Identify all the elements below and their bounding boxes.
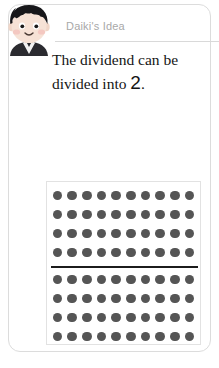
dot [141,248,151,258]
dot [141,191,151,201]
dot [126,191,136,201]
dot [155,248,165,258]
dot [67,332,77,342]
dot [82,275,92,285]
dot [126,229,136,239]
dot [53,332,63,342]
dot [170,191,180,201]
dot [67,210,77,220]
dot [97,210,107,220]
dot [170,332,180,342]
dot [82,191,92,201]
dot [67,313,77,323]
dot [170,248,180,258]
dot [126,210,136,220]
dot [82,229,92,239]
dot-group-top [47,186,200,262]
dot [53,191,63,201]
dot [170,275,180,285]
dot [82,332,92,342]
dot [97,191,107,201]
dot [141,313,151,323]
dot [155,294,165,304]
dot [67,294,77,304]
dot [170,294,180,304]
boy-avatar-icon [4,2,54,56]
dot [53,294,63,304]
dot [185,332,195,342]
dot [141,210,151,220]
dot [67,275,77,285]
dot [141,294,151,304]
dot [97,332,107,342]
dot [185,248,195,258]
dot-array-split-line [51,266,198,268]
dot [111,313,121,323]
dot [185,191,195,201]
dot [185,275,195,285]
sentence-text-after: . [141,75,145,92]
dot [111,210,121,220]
dot-group-bottom [47,270,200,346]
dot [67,191,77,201]
sentence-text: The dividend can be divided into 2. [52,48,212,95]
dot [67,248,77,258]
dot-row [47,243,200,262]
dot-array-box [46,181,201,345]
dot [97,229,107,239]
dot [82,294,92,304]
dot-row [47,205,200,224]
dot [82,313,92,323]
dot [53,248,63,258]
dot [185,210,195,220]
dot-row [47,289,200,308]
dot [82,210,92,220]
dot [185,294,195,304]
dot [97,294,107,304]
dot [111,332,121,342]
dot [126,275,136,285]
dot [67,229,77,239]
dot [53,210,63,220]
dot [185,313,195,323]
dot [82,248,92,258]
dot-row [47,308,200,327]
sentence-text-before: The dividend can be divided into [52,51,178,92]
dot [111,248,121,258]
dot-row [47,186,200,205]
header-divider [55,41,219,42]
sentence-number: 2 [130,72,141,93]
dot [170,210,180,220]
dot-row [47,224,200,243]
dot [155,332,165,342]
dot [155,275,165,285]
header-label: Daiki's Idea [66,20,125,32]
dot [155,313,165,323]
dot [185,229,195,239]
dot-row [47,270,200,289]
dot [53,313,63,323]
dot [111,275,121,285]
dot [141,275,151,285]
dot [155,229,165,239]
dot [111,294,121,304]
dot [53,275,63,285]
dot [97,248,107,258]
dot [141,332,151,342]
dot [155,191,165,201]
dot-row [47,327,200,346]
dot [111,229,121,239]
dot [111,191,121,201]
dot [141,229,151,239]
dot [126,294,136,304]
dot [126,313,136,323]
dot [126,332,136,342]
dot [170,313,180,323]
dot [126,248,136,258]
dot [170,229,180,239]
dot [97,275,107,285]
dot [97,313,107,323]
dot [155,210,165,220]
dot [53,229,63,239]
